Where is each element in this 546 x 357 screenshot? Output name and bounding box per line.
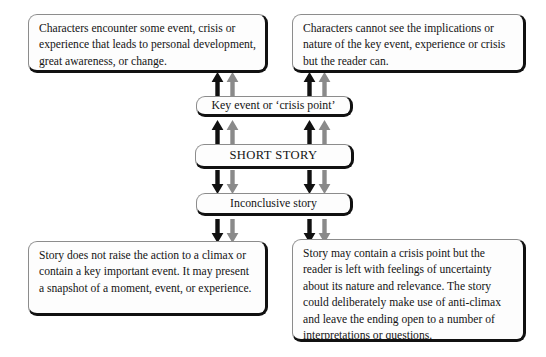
box-text: SHORT STORY xyxy=(229,147,317,165)
box-text: Characters cannot see the implications o… xyxy=(303,21,514,70)
box-inconclusive-story: Inconclusive story xyxy=(196,193,353,216)
box-characters-cannot-see-implications: Characters cannot see the implications o… xyxy=(292,14,526,73)
arrow-inconclusive-to-bottom-left-black xyxy=(211,219,224,243)
arrow-key-event-to-top-left-gray xyxy=(226,72,239,96)
diagram-canvas: Characters encounter some event, crisis … xyxy=(0,0,546,357)
box-key-event-crisis-point: Key event or ‘crisis point’ xyxy=(196,96,353,117)
box-story-may-contain-crisis-point: Story may contain a crisis point but the… xyxy=(292,239,526,342)
box-text: Story does not raise the action to a cli… xyxy=(39,248,256,297)
arrow-short-story-to-key-event-left-black xyxy=(211,120,224,144)
box-story-does-not-raise-action: Story does not raise the action to a cli… xyxy=(28,241,268,316)
arrow-key-event-to-top-left-black xyxy=(211,72,224,96)
box-short-story: SHORT STORY xyxy=(195,144,354,169)
arrow-short-story-to-inconclusive-left-gray xyxy=(226,170,239,194)
arrow-short-story-to-key-event-right-gray xyxy=(318,120,331,144)
arrow-short-story-to-inconclusive-right-black xyxy=(303,170,316,194)
arrow-key-event-to-top-right-gray xyxy=(318,72,331,96)
arrow-short-story-to-inconclusive-right-gray xyxy=(318,170,331,194)
arrow-key-event-to-top-right-black xyxy=(303,72,316,96)
arrow-short-story-to-key-event-right-black xyxy=(303,120,316,144)
arrow-short-story-to-key-event-left-gray xyxy=(226,120,239,144)
box-text: Key event or ‘crisis point’ xyxy=(212,97,336,114)
arrow-short-story-to-inconclusive-left-black xyxy=(211,170,224,194)
arrow-inconclusive-to-bottom-left-gray xyxy=(226,219,239,243)
box-text: Story may contain a crisis point but the… xyxy=(303,246,514,345)
box-text: Inconclusive story xyxy=(230,195,317,212)
box-characters-encounter-event: Characters encounter some event, crisis … xyxy=(28,14,268,73)
box-text: Characters encounter some event, crisis … xyxy=(39,21,256,70)
